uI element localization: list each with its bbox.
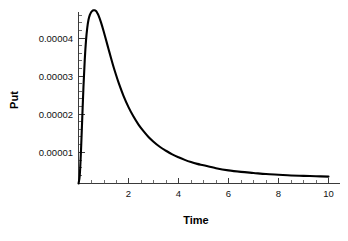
- y-tick-label-2e-5: 0.00002: [39, 109, 73, 120]
- put-vs-time-line-chart: 2 4 6 8 10 0.00001 0.00002 0.00003 0.000…: [0, 0, 348, 241]
- x-tick-label-6: 6: [226, 188, 231, 199]
- put-value-curve: [79, 10, 329, 183]
- y-tick-label-3e-5: 0.00003: [39, 71, 73, 82]
- x-axis-minor-ticks: [92, 180, 317, 184]
- x-tick-label-8: 8: [276, 188, 281, 199]
- x-tick-label-10: 10: [323, 188, 334, 199]
- x-axis-title: Time: [183, 214, 208, 226]
- y-tick-label-1e-5: 0.00001: [39, 147, 73, 158]
- y-tick-label-4e-5: 0.00004: [39, 33, 73, 44]
- y-axis-title: Put: [8, 91, 20, 109]
- x-axis-major-ticks: [129, 178, 329, 184]
- x-tick-label-2: 2: [126, 188, 131, 199]
- chart-figure: 2 4 6 8 10 0.00001 0.00002 0.00003 0.000…: [0, 0, 348, 241]
- x-tick-label-4: 4: [176, 188, 181, 199]
